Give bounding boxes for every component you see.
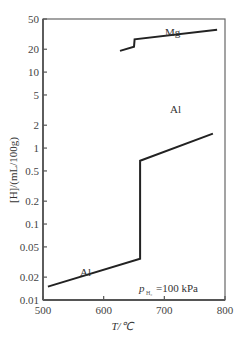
y-tick-label: 0.5 — [25, 165, 39, 177]
y-tick-label: 10 — [28, 66, 40, 78]
svg-text:p: p — [138, 282, 145, 294]
y-axis-label: [H]/(mL/100g) — [7, 137, 20, 203]
y-tick-label: 0.02 — [20, 271, 39, 283]
x-ticks: 500600700800 — [35, 296, 234, 316]
x-tick-label: 800 — [217, 304, 234, 316]
x-tick-label: 600 — [95, 304, 112, 316]
series — [48, 30, 217, 287]
y-tick-label: 50 — [28, 13, 40, 25]
x-tick-label: 700 — [156, 304, 173, 316]
series-al-line — [48, 134, 213, 287]
label-al-lower: Al — [80, 266, 91, 278]
label-al-upper: Al — [170, 103, 181, 115]
y-tick-label: 2 — [34, 119, 40, 131]
svg-text:=100 kPa: =100 kPa — [156, 282, 198, 294]
y-tick-label: 0.2 — [25, 195, 39, 207]
svg-text:H₂: H₂ — [146, 290, 152, 296]
x-tick-label: 500 — [35, 304, 52, 316]
y-tick-label: 5 — [34, 89, 40, 101]
y-tick-label: 0.05 — [20, 241, 40, 253]
label-mg: Mg — [165, 26, 181, 38]
pressure-annotation: p H₂ =100 kPa — [138, 282, 198, 296]
plot-frame — [43, 19, 225, 300]
x-axis-label: T/℃ — [111, 320, 134, 332]
y-tick-label: 0.1 — [25, 218, 39, 230]
y-tick-label: 20 — [28, 43, 40, 55]
chart: 0.010.020.050.10.20.5125102050 500600700… — [0, 0, 245, 340]
y-tick-label: 1 — [34, 142, 40, 154]
